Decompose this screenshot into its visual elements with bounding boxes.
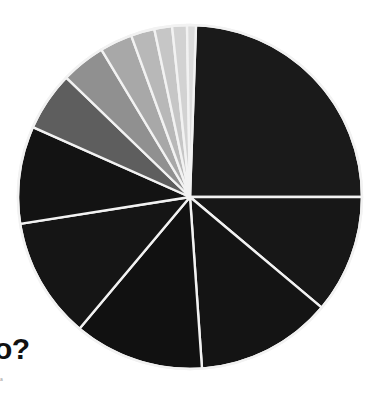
pie-chart-figure: o? a — [0, 0, 380, 401]
pie-chart-svg — [0, 0, 380, 401]
pie-slice[interactable] — [190, 25, 362, 197]
pie-slice-group — [18, 25, 362, 369]
